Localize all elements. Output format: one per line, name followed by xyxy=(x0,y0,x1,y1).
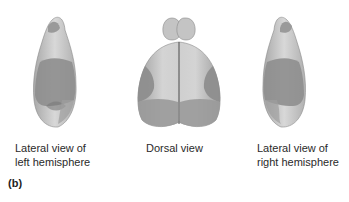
panel-label: (b) xyxy=(8,177,22,189)
caption-left-line1: Lateral view of xyxy=(15,141,90,155)
caption-right-line2: right hemisphere xyxy=(257,155,339,169)
dorsal-brain xyxy=(138,18,220,127)
caption-dorsal-line1: Dorsal view xyxy=(146,141,203,155)
caption-left-line2: left hemisphere xyxy=(15,155,90,169)
caption-right-hemisphere: Lateral view of right hemisphere xyxy=(257,141,339,169)
left-hemisphere-lateral xyxy=(33,17,76,127)
right-hemisphere-lateral xyxy=(263,17,306,127)
caption-left-hemisphere: Lateral view of left hemisphere xyxy=(15,141,90,169)
caption-dorsal: Dorsal view xyxy=(146,141,203,155)
brain-figure xyxy=(0,0,349,202)
caption-right-line1: Lateral view of xyxy=(257,141,339,155)
